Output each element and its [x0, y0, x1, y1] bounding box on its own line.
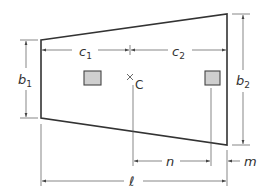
b2-label: b2: [236, 73, 250, 90]
length-label: ℓ: [128, 174, 134, 189]
n-label: n: [166, 154, 174, 169]
c2-label: c2: [172, 44, 185, 61]
c-dimension: [42, 45, 226, 55]
c1-label: c1: [79, 44, 92, 61]
centroid-marker: [127, 74, 133, 80]
column-right: [205, 71, 220, 85]
b1-label: b1: [18, 72, 32, 89]
trapezoid-footing: [41, 14, 227, 145]
m-label: m: [244, 154, 257, 169]
column-left: [84, 71, 101, 85]
center-label: C: [135, 78, 143, 92]
footing-diagram: C c1 c2 b1 b2 n m: [0, 0, 267, 196]
extension-lines: [41, 85, 227, 186]
